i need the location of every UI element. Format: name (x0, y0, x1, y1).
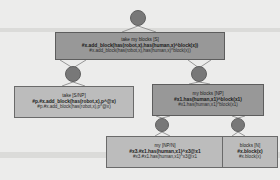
diagram-canvas: take my blocks [S] #x.add_block(has(robo… (0, 0, 280, 180)
my-blocks-operator-node[interactable] (191, 66, 207, 82)
category-box-my-blocks[interactable]: my blocks [NP] #x1.has(human,x1)^block(x… (152, 84, 264, 116)
category-box-blocks[interactable]: blocks [N] #x.block(x) #x.block(x) (222, 136, 278, 168)
take-operator-node[interactable] (65, 66, 81, 82)
root-node[interactable] (130, 10, 146, 26)
category-box-take-logic-plain: #p.#x.add_block(has(robot,x),p^@x) (15, 105, 133, 110)
category-box-sentence-logic-plain: #x.add_block(has(robot,x),has(human,x)^b… (56, 49, 224, 54)
category-box-my-blocks-logic-plain: #x1.has(human,x1)^block(x1) (153, 103, 263, 108)
blocks-operator-node[interactable] (231, 118, 245, 132)
category-box-my-logic-plain: #x3.#x1.has(human,x1)^x3@x1 (107, 155, 223, 160)
category-box-blocks-logic-plain: #x.block(x) (223, 155, 277, 160)
my-operator-node[interactable] (155, 118, 169, 132)
category-box-take[interactable]: take [S/NP] #p.#x.add_block(has(robot,x)… (14, 86, 134, 118)
category-box-sentence[interactable]: take my blocks [S] #x.add_block(has(robo… (55, 32, 225, 60)
category-box-my[interactable]: my [NP/N] #x3.#x1.has(human,x1)^x3@x1 #x… (106, 136, 224, 168)
